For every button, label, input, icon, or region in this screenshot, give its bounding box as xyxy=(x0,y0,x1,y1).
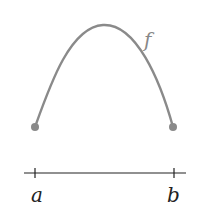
endpoint-b-dot xyxy=(169,123,177,131)
function-arc-diagram: f a b xyxy=(0,0,198,210)
curve-f xyxy=(35,25,173,127)
curve-label-f: f xyxy=(142,28,155,52)
diagram-canvas: f a b xyxy=(0,0,198,210)
axis-label-b: b xyxy=(167,183,180,207)
axis-label-a: a xyxy=(31,183,43,207)
endpoint-a-dot xyxy=(31,123,39,131)
